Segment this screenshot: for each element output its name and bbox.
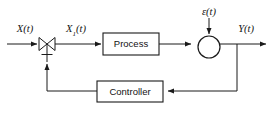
signal-label-x1-text: X1(t): [65, 23, 86, 38]
wire-feedback-controller-to-valve: [47, 64, 97, 91]
block-diagram-svg: Process Controller X(t) X1(t) ε(t) Y(t): [0, 0, 273, 115]
signal-label-x1: X1(t): [65, 23, 86, 38]
signal-label-x: X(t): [16, 23, 34, 35]
controller-label: Controller: [109, 86, 150, 97]
valve-left-triangle: [39, 38, 47, 51]
block-controller[interactable]: Controller: [97, 81, 163, 102]
process-label: Process: [114, 38, 149, 49]
valve-right-triangle: [47, 38, 55, 51]
signal-label-epsilon: ε(t): [202, 6, 217, 18]
control-valve-node: [39, 38, 55, 63]
block-process[interactable]: Process: [103, 33, 159, 55]
signal-label-y: Y(t): [238, 23, 254, 35]
block-diagram-canvas: Process Controller X(t) X1(t) ε(t) Y(t): [0, 0, 273, 115]
summing-junction-node: [198, 36, 220, 58]
